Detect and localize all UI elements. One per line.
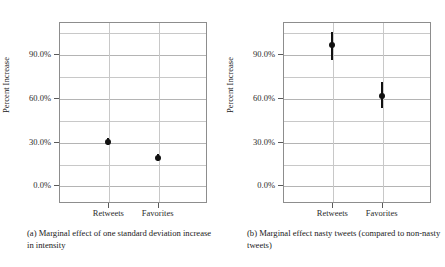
x-axis-tick-label: Retweets: [93, 208, 124, 218]
data-point: [105, 139, 111, 145]
y-axis-tick-label: 30.0%: [7, 137, 51, 147]
data-point: [379, 93, 385, 99]
gridline-minor: [284, 77, 430, 78]
x-axis-tick-label: Favorites: [142, 208, 174, 218]
y-axis-tick: [278, 54, 283, 55]
panel-a-caption: (a) Marginal effect of one standard devi…: [27, 228, 217, 251]
y-axis-tick: [54, 142, 59, 143]
y-axis-tick-label: 90.0%: [7, 49, 51, 59]
gridline-vertical: [159, 23, 160, 202]
panel-b: Percent Increase 0.0%30.0%60.0%90.0%Retw…: [222, 0, 445, 267]
y-axis-tick-label: 30.0%: [231, 137, 275, 147]
data-point: [155, 155, 161, 161]
y-axis-tick-label: 90.0%: [231, 49, 275, 59]
y-axis-tick-label: 60.0%: [7, 93, 51, 103]
gridline-major: [284, 55, 430, 56]
y-axis-tick-label: 0.0%: [231, 180, 275, 190]
y-axis-tick: [278, 98, 283, 99]
gridline-major: [284, 143, 430, 144]
gridline-minor: [284, 165, 430, 166]
gridline-major: [60, 55, 206, 56]
x-axis-tick-label: Retweets: [317, 208, 348, 218]
gridline-minor: [60, 121, 206, 122]
y-axis-tick: [54, 54, 59, 55]
y-axis-tick: [278, 185, 283, 186]
gridline-vertical: [333, 23, 334, 202]
y-axis-tick: [54, 185, 59, 186]
gridline-major: [284, 99, 430, 100]
gridline-major: [60, 143, 206, 144]
figure-container: Percent Increase 0.0%30.0%60.0%90.0%Retw…: [0, 0, 445, 267]
gridline-minor: [60, 77, 206, 78]
y-axis-tick: [54, 98, 59, 99]
y-axis-tick-label: 0.0%: [7, 180, 51, 190]
gridline-minor: [284, 121, 430, 122]
gridline-vertical: [383, 23, 384, 202]
gridline-major: [284, 186, 430, 187]
x-axis-tick-label: Favorites: [366, 208, 398, 218]
panel-a: Percent Increase 0.0%30.0%60.0%90.0%Retw…: [0, 0, 222, 267]
gridline-major: [60, 99, 206, 100]
gridline-major: [60, 186, 206, 187]
plot-area-b: [283, 22, 431, 203]
gridline-minor: [284, 33, 430, 34]
gridline-minor: [60, 165, 206, 166]
panel-b-caption: (b) Marginal effect nasty tweets (compar…: [247, 228, 445, 251]
data-point: [329, 42, 335, 48]
y-axis-tick: [278, 142, 283, 143]
plot-area-a: [59, 22, 207, 203]
y-axis-tick-label: 60.0%: [231, 93, 275, 103]
gridline-minor: [60, 33, 206, 34]
gridline-vertical: [109, 23, 110, 202]
